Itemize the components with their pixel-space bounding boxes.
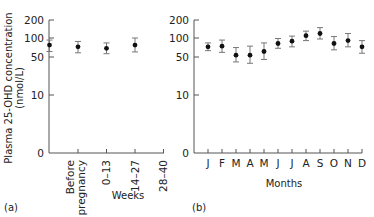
panel-b-x-tick-label: J — [289, 157, 293, 169]
panel-b-x-tick-label: J — [275, 157, 279, 169]
data-point — [220, 44, 225, 49]
panel-b-y-tick-label: 10 — [176, 89, 189, 101]
data-point — [248, 53, 253, 58]
panel-a-x-tick-label: 28–40 — [157, 160, 169, 192]
panel-b-x-tick-label: N — [344, 157, 352, 169]
panel-b-x-tick-label: A — [302, 157, 310, 169]
data-point — [133, 43, 138, 48]
panel-b-x-tick-label: D — [358, 157, 366, 169]
panel-b-y-tick-label: 100 — [169, 32, 189, 44]
data-point — [76, 44, 81, 49]
panel-a-y-tick-label: 10 — [31, 89, 44, 101]
panel-b-x-tick-label: S — [317, 157, 324, 169]
data-point — [290, 39, 295, 44]
panel-a-x-tick-label: 14–27 — [129, 160, 141, 192]
data-point — [304, 33, 309, 38]
panel-a-label: (a) — [4, 202, 18, 213]
data-point — [276, 41, 281, 46]
panel-b-x-tick-label: J — [205, 157, 209, 169]
data-point — [234, 53, 239, 58]
data-point — [47, 43, 52, 48]
data-point — [104, 46, 109, 51]
data-point — [318, 31, 323, 36]
panel-b-x-tick-label: O — [330, 157, 338, 169]
panel-b-x-tick-label: M — [259, 157, 268, 169]
panel-b-x-tick-label: F — [219, 157, 225, 169]
panel-a-y-axis-title: Plasma 25-OHD concentration(nmol/L) — [3, 12, 25, 163]
panel-a-y-tick-label: 200 — [24, 14, 44, 26]
data-point — [360, 44, 365, 49]
panel-b-y-tick-label: 0 — [182, 147, 189, 159]
data-point — [262, 49, 267, 54]
panel-b-label: (b) — [192, 202, 206, 213]
panel-b-x-tick-label: M — [231, 157, 240, 169]
panel-a-y-tick-label: 100 — [24, 32, 44, 44]
panel-b-x-axis-title: Months — [266, 178, 303, 189]
panel-a-x-tick-label: Beforepregnancy — [64, 160, 87, 216]
panel-a-x-axis-title: Weeks — [112, 190, 145, 201]
data-point — [206, 44, 211, 49]
panel-b-y-tick-label: 50 — [176, 51, 189, 63]
data-point — [346, 38, 351, 43]
data-point — [332, 41, 337, 46]
panel-b-x-tick-label: A — [246, 157, 254, 169]
chart-figure: 20010050100Beforepregnancy0–1314–2728–40… — [0, 0, 374, 217]
panel-a-y-tick-label: 0 — [37, 147, 44, 159]
panel-a-y-tick-label: 50 — [31, 51, 44, 63]
panel-b-y-tick-label: 200 — [169, 14, 189, 26]
panel-a-x-tick-label: 0–13 — [100, 160, 112, 185]
